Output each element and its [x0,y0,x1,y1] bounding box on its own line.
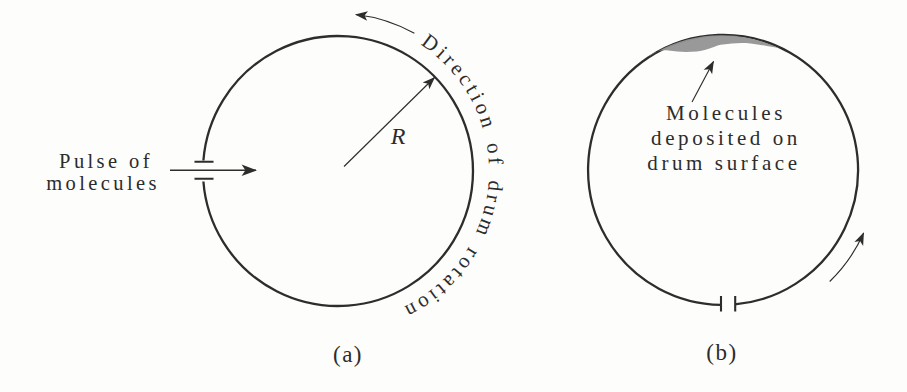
deposit-pointer-arrow [692,62,714,103]
rotation-arrow-a [356,15,415,34]
pulse-label-line1: Pulse of [59,150,153,172]
caption-a: (a) [333,342,363,367]
deposit-label-line1: Molecules [666,101,786,125]
deposit-label-line3: drum surface [647,151,800,175]
deposit-label-line2: deposited on [651,126,801,150]
panel-a: Pulse of molecules R Direction of drum r… [46,15,508,368]
radius-arrow [344,78,435,167]
drum-rotation-diagram: Pulse of molecules R Direction of drum r… [0,0,907,392]
slit-ticks-b [721,296,735,312]
rotation-arrow-b [830,233,864,282]
pulse-label-line2: molecules [46,172,160,194]
radius-label: R [390,123,406,149]
panel-b: Molecules deposited on drum surface (b) [588,35,864,365]
caption-b: (b) [706,340,737,365]
textbook-figure: Pulse of molecules R Direction of drum r… [0,0,907,392]
